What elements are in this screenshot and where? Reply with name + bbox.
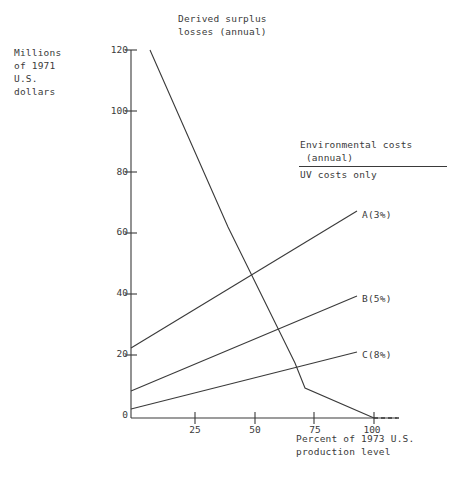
figure-container: Millions of 1971 U.S. dollars Derived su… <box>0 0 457 484</box>
series-c-line <box>131 352 357 409</box>
plot-svg <box>0 0 457 484</box>
series-derived-surplus-losses <box>150 50 374 418</box>
series-a-line <box>131 211 357 348</box>
series-b-line <box>131 296 357 391</box>
